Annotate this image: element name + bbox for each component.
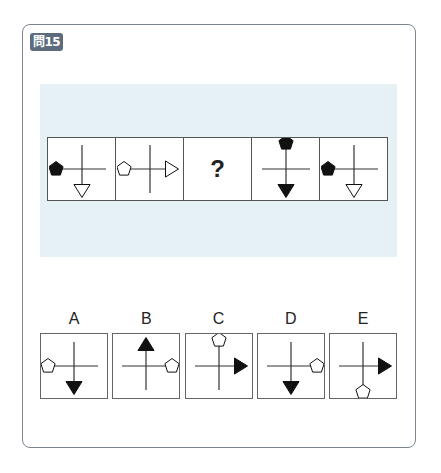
triangle-black-icon	[283, 382, 299, 395]
triangle-black-icon	[66, 382, 82, 395]
option-c[interactable]: C	[185, 309, 253, 401]
sequence-cell-5	[320, 138, 387, 200]
cross-figure-icon	[258, 334, 324, 398]
option-a[interactable]: A	[40, 309, 108, 401]
pentagon-black-icon	[49, 162, 63, 176]
question-number-badge: 問15	[30, 33, 63, 51]
pentagon-white-icon	[41, 359, 55, 373]
option-b[interactable]: B	[112, 309, 180, 401]
cross-figure-icon	[321, 138, 387, 200]
option-label: C	[213, 309, 225, 333]
cross-figure-icon	[117, 138, 183, 200]
option-box[interactable]	[257, 333, 325, 399]
option-d[interactable]: D	[257, 309, 325, 401]
pentagon-white-icon	[356, 385, 370, 399]
option-label: D	[285, 309, 297, 333]
triangle-white-icon	[73, 185, 89, 198]
cross-figure-icon	[49, 138, 115, 200]
option-box[interactable]	[329, 333, 397, 399]
sequence-cell-1	[48, 138, 116, 200]
pentagon-white-icon	[165, 359, 179, 373]
sequence-cell-4	[252, 138, 320, 200]
option-box[interactable]	[185, 333, 253, 399]
pentagon-white-icon	[310, 359, 324, 373]
cross-figure-icon	[41, 334, 107, 398]
triangle-black-icon	[277, 185, 293, 198]
triangle-white-icon	[345, 185, 361, 198]
answer-options: A B C D E	[40, 309, 397, 401]
cross-figure-icon	[330, 334, 396, 398]
pentagon-white-icon	[117, 162, 131, 176]
sequence-row: ?	[47, 137, 388, 201]
option-label: E	[358, 309, 369, 333]
option-box[interactable]	[112, 333, 180, 399]
cross-figure-icon	[113, 334, 179, 398]
cross-figure-icon	[253, 138, 319, 200]
sequence-cell-missing: ?	[184, 138, 252, 200]
sequence-cell-2	[116, 138, 184, 200]
option-label: B	[141, 309, 152, 333]
triangle-black-icon	[379, 358, 392, 374]
pentagon-black-icon	[321, 162, 335, 176]
triangle-black-icon	[234, 358, 247, 374]
triangle-black-icon	[138, 338, 154, 351]
pentagon-black-icon	[278, 138, 292, 149]
option-box[interactable]	[40, 333, 108, 399]
triangle-white-icon	[165, 161, 178, 177]
option-label: A	[69, 309, 80, 333]
cross-figure-icon	[186, 334, 252, 398]
option-e[interactable]: E	[329, 309, 397, 401]
question-mark: ?	[210, 155, 225, 183]
pentagon-white-icon	[211, 334, 225, 346]
